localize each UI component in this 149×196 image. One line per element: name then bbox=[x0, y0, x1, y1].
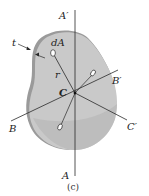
label-r: r bbox=[55, 70, 60, 80]
da-element bbox=[51, 50, 56, 57]
label-a: A bbox=[62, 171, 69, 181]
label-b-prime: B′ bbox=[112, 76, 122, 86]
label-t: t bbox=[12, 38, 16, 48]
label-b: B bbox=[9, 124, 16, 134]
label-c: C bbox=[59, 88, 67, 98]
label-c-prime: C′ bbox=[127, 122, 137, 132]
polar-moment-figure: A′ A B B′ C′ C dA r t (c) bbox=[0, 0, 149, 196]
figure-caption: (c) bbox=[67, 183, 79, 192]
arrowhead-icon bbox=[27, 47, 32, 51]
centroid-point bbox=[74, 92, 77, 95]
label-da: dA bbox=[51, 38, 65, 48]
label-a-prime: A′ bbox=[59, 11, 69, 21]
diagram-canvas bbox=[0, 0, 149, 196]
